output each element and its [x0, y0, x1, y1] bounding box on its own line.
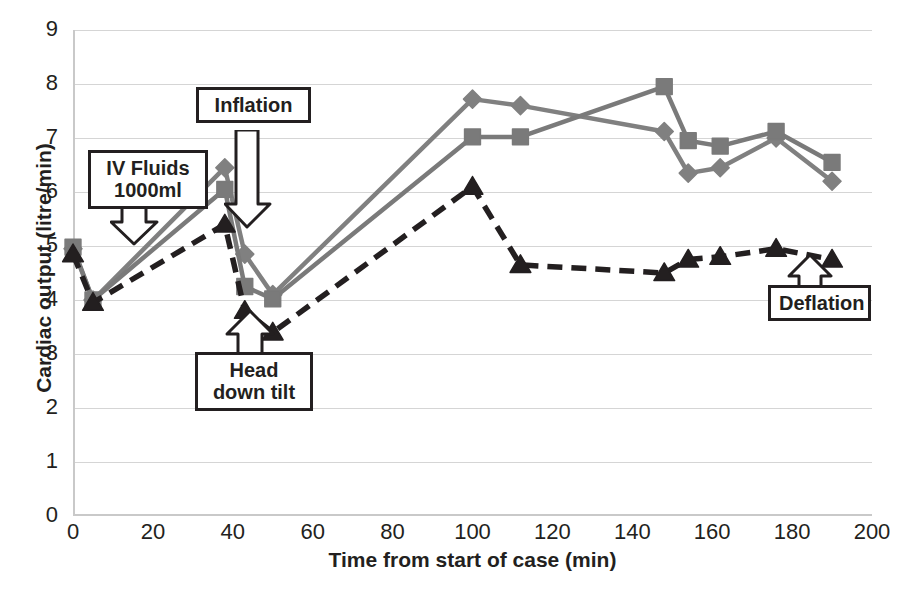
- gridline: [73, 30, 872, 31]
- callout-head-down-tilt-line2: down tilt: [206, 381, 302, 403]
- y-tick-label: 2: [18, 396, 58, 418]
- y-tick-label: 9: [18, 18, 58, 40]
- y-tick-label: 5: [18, 234, 58, 256]
- x-tick-label: 200: [842, 521, 900, 543]
- gridline: [73, 408, 872, 409]
- callout-iv-fluids-line1: IV Fluids: [99, 157, 197, 179]
- callout-inflation: Inflation: [196, 87, 311, 123]
- gridline: [73, 354, 872, 355]
- callout-deflation-label: Deflation: [779, 292, 860, 314]
- callout-deflation: Deflation: [768, 285, 871, 321]
- x-axis-title: Time from start of case (min): [73, 548, 872, 572]
- x-tick-label: 140: [602, 521, 662, 543]
- gridline: [73, 462, 872, 463]
- gridline: [73, 246, 872, 247]
- y-tick-label: 1: [18, 450, 58, 472]
- y-tick-label: 6: [18, 180, 58, 202]
- x-axis-line: [73, 514, 872, 516]
- x-tick-label: 120: [522, 521, 582, 543]
- callout-head-down-tilt-line1: Head: [206, 359, 302, 381]
- gridline: [73, 138, 872, 139]
- gridline: [73, 300, 872, 301]
- x-tick-label: 0: [43, 521, 103, 543]
- y-tick-label: 7: [18, 126, 58, 148]
- x-tick-label: 160: [682, 521, 742, 543]
- gridline: [73, 84, 872, 85]
- x-tick-label: 100: [443, 521, 503, 543]
- callout-head-down-tilt: Head down tilt: [195, 352, 313, 411]
- y-tick-label: 4: [18, 288, 58, 310]
- inflation-arrow-icon: [224, 130, 278, 230]
- x-tick-label: 80: [363, 521, 423, 543]
- y-axis-line: [73, 30, 75, 516]
- callout-inflation-label: Inflation: [207, 94, 300, 116]
- x-tick-label: 40: [203, 521, 263, 543]
- y-axis-title: Cardiac output (litre/min): [32, 28, 56, 508]
- y-tick-label: 3: [18, 342, 58, 364]
- chart-figure: Cardiac output (litre/min) Time from sta…: [0, 0, 900, 593]
- callout-iv-fluids-line2: 1000ml: [99, 179, 197, 201]
- plot-area: [73, 30, 872, 516]
- x-tick-label: 20: [123, 521, 183, 543]
- callout-iv-fluids: IV Fluids 1000ml: [88, 150, 208, 209]
- x-tick-label: 180: [762, 521, 822, 543]
- y-tick-label: 8: [18, 72, 58, 94]
- x-tick-label: 60: [283, 521, 343, 543]
